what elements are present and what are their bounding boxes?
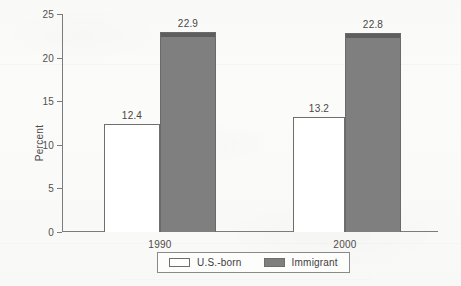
gray-filled-swatch-icon	[264, 258, 285, 267]
white-outlined-swatch-icon	[169, 258, 190, 267]
legend-item-usborn[interactable]: U.S.-born	[169, 257, 242, 268]
y-tick-mark	[57, 145, 62, 146]
y-tick-label: 0	[48, 227, 54, 238]
x-axis-label-2000: 2000	[333, 239, 356, 250]
bar-value-label: 12.4	[122, 110, 142, 121]
legend-label: U.S.-born	[197, 257, 242, 268]
bar-value-label: 13.2	[309, 103, 329, 114]
bar-2000-immigrant[interactable]: 22.8	[345, 33, 401, 232]
scan-streak	[120, 279, 371, 280]
legend-label: Immigrant	[292, 257, 338, 268]
y-tick-mark	[57, 188, 62, 189]
x-axis-label-1990: 1990	[148, 239, 171, 250]
scan-streak	[0, 243, 461, 244]
chart-legend: U.S.-born Immigrant	[157, 252, 350, 273]
bar-1990-immigrant[interactable]: 22.9	[160, 32, 216, 232]
y-tick-mark	[57, 14, 62, 15]
bar-2000-usborn[interactable]: 13.2	[293, 117, 345, 232]
y-tick-label: 25	[42, 9, 54, 20]
y-tick-label: 5	[48, 183, 54, 194]
y-tick-mark	[57, 101, 62, 102]
y-tick-label: 20	[42, 52, 54, 63]
bar-value-label: 22.8	[363, 19, 383, 30]
y-tick-label: 15	[42, 96, 54, 107]
y-tick-mark	[57, 58, 62, 59]
bar-1990-usborn[interactable]: 12.4	[104, 124, 160, 232]
y-axis-line	[62, 14, 63, 232]
plot-area: 25 20 15 10 5 0 12.4 22.9 1990	[62, 14, 438, 232]
y-tick-mark	[57, 232, 62, 233]
y-tick-label: 10	[42, 139, 54, 150]
legend-item-immigrant[interactable]: Immigrant	[264, 257, 338, 268]
bar-value-label: 22.9	[178, 18, 198, 29]
chart-page: Percent 25 20 15 10 5 0	[0, 0, 461, 286]
